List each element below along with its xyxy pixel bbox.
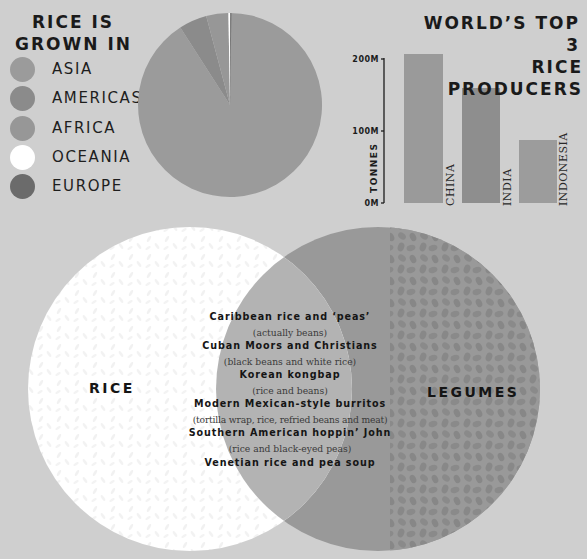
dish-name: Venetian rice and pea soup [140,457,440,468]
y-tick-label-0m: 0M [364,199,379,208]
bar-label-china: CHINA [444,163,457,206]
y-axis-title: TONNES [369,143,379,193]
pie-chart [138,13,322,197]
bar-title-line1: WORLD’S TOP 3 [422,12,582,56]
bar-india [462,88,500,203]
dish-name: Korean kongbap [140,369,440,380]
dish-name: Southern American hoppin’ John [140,427,440,438]
dish-note: (actually beans) [140,327,440,338]
y-tick-label-100m: 100M [352,127,379,136]
bar-indonesia [519,140,557,203]
dish-note: (rice and beans) [140,385,440,396]
venn-label-rice: RICE [89,380,135,396]
y-tick-label-200m: 200M [352,55,379,64]
dish-note: (rice and black-eyed peas) [140,443,440,454]
bar-title: WORLD’S TOP 3 RICE PRODUCERS [422,12,582,100]
dish-name: Cuban Moors and Christians [140,340,440,351]
dish-note: (black beans and white rice) [140,356,440,367]
bar-label-india: INDIA [501,168,514,206]
dish-note: (tortilla wrap, rice, refried beans and … [140,414,440,425]
bar-label-indonesia: INDONESIA [557,132,570,206]
venn-label-legumes: LEGUMES [427,384,519,400]
dish-name: Caribbean rice and ‘peas’ [140,311,440,322]
bar-title-line2: RICE PRODUCERS [422,56,583,100]
dish-name: Modern Mexican-style burritos [140,398,440,409]
